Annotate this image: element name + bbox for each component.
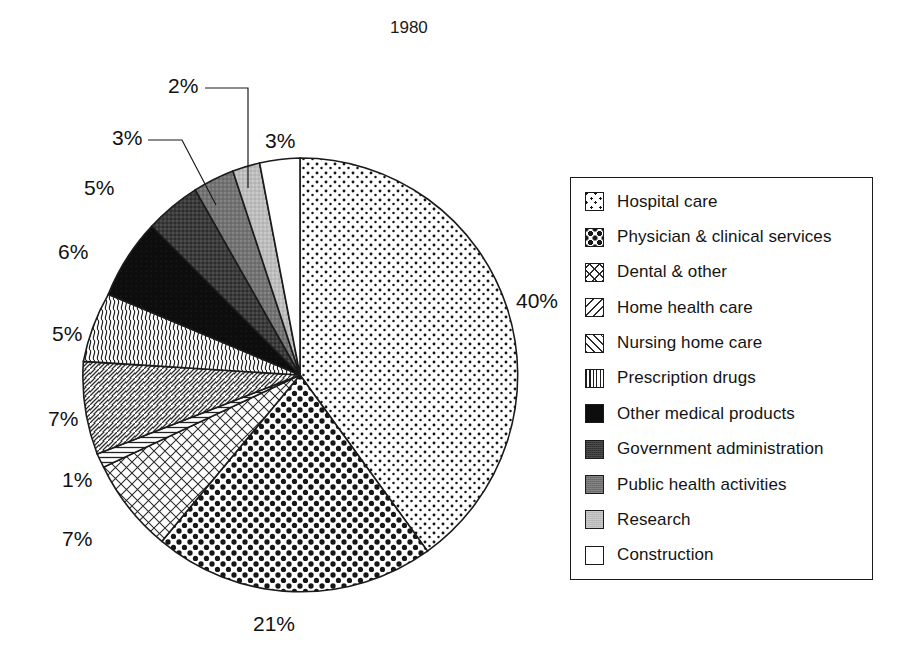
- pct-label-physician: 21%: [253, 612, 295, 636]
- legend-swatch-nursing-home-care-icon: [585, 334, 604, 353]
- legend-label-government-administration: Government administration: [617, 439, 824, 459]
- legend-swatch-public-health-activities-icon: [585, 475, 604, 494]
- legend-label-physician-clinical-services: Physician & clinical services: [617, 227, 832, 247]
- legend-item-nursing-home-care[interactable]: Nursing home care: [585, 326, 872, 360]
- pct-label-other-medical: 6%: [58, 240, 88, 264]
- chart-canvas: 1980: [0, 0, 901, 667]
- legend-swatch-construction-icon: [585, 546, 604, 565]
- pct-label-government-admin: 5%: [84, 176, 114, 200]
- legend-label-home-health-care: Home health care: [617, 298, 753, 318]
- pct-label-construction: 3%: [265, 129, 295, 153]
- pie-slices: [83, 158, 518, 592]
- legend-swatch-hospital-care-icon: [585, 192, 604, 211]
- legend-item-government-administration[interactable]: Government administration: [585, 432, 872, 466]
- legend-item-hospital-care[interactable]: Hospital care: [585, 185, 872, 219]
- legend-items: Hospital care Physician & clinical servi…: [571, 178, 872, 579]
- pct-label-dental-other: 7%: [62, 527, 92, 551]
- pct-label-nursing-home: 7%: [48, 407, 78, 431]
- legend-label-prescription-drugs: Prescription drugs: [617, 368, 756, 388]
- legend-item-research[interactable]: Research: [585, 503, 872, 537]
- pct-label-public-health: 3%: [112, 126, 142, 150]
- legend-item-public-health-activities[interactable]: Public health activities: [585, 468, 872, 502]
- legend-swatch-government-administration-icon: [585, 440, 604, 459]
- legend-swatch-physician-clinical-services-icon: [585, 228, 604, 247]
- legend-label-nursing-home-care: Nursing home care: [617, 333, 762, 353]
- legend-swatch-other-medical-products-icon: [585, 404, 604, 423]
- legend-item-home-health-care[interactable]: Home health care: [585, 291, 872, 325]
- legend: Hospital care Physician & clinical servi…: [570, 177, 873, 580]
- legend-item-construction[interactable]: Construction: [585, 538, 872, 572]
- pct-label-prescription-drugs: 5%: [52, 322, 82, 346]
- legend-swatch-home-health-care-icon: [585, 298, 604, 317]
- pct-label-research: 2%: [168, 74, 198, 98]
- legend-item-dental-other[interactable]: Dental & other: [585, 255, 872, 289]
- legend-label-public-health-activities: Public health activities: [617, 475, 787, 495]
- legend-item-prescription-drugs[interactable]: Prescription drugs: [585, 361, 872, 395]
- pct-label-home-health: 1%: [62, 468, 92, 492]
- legend-swatch-research-icon: [585, 510, 604, 529]
- pct-label-hospital-care: 40%: [516, 289, 558, 313]
- legend-label-other-medical-products: Other medical products: [617, 404, 795, 424]
- legend-label-construction: Construction: [617, 545, 714, 565]
- legend-item-physician-clinical-services[interactable]: Physician & clinical services: [585, 220, 872, 254]
- legend-item-other-medical-products[interactable]: Other medical products: [585, 397, 872, 431]
- legend-label-dental-other: Dental & other: [617, 262, 727, 282]
- legend-swatch-prescription-drugs-icon: [585, 369, 604, 388]
- legend-label-hospital-care: Hospital care: [617, 192, 718, 212]
- legend-swatch-dental-other-icon: [585, 263, 604, 282]
- legend-label-research: Research: [617, 510, 691, 530]
